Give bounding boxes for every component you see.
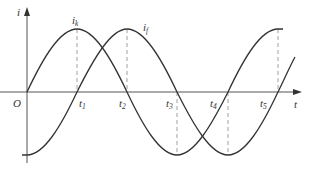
curve-label-i-f: if [143,21,149,35]
time-mark-t5: t5 [260,97,267,111]
y-axis-arrow-icon [24,7,30,16]
time-mark-t1: t1 [79,97,86,111]
origin-label: O [13,97,21,109]
y-axis-label: i [17,6,20,18]
waveform-diagram: i t O ik if t1 t2 t3 t4 t5 [0,0,313,175]
x-axis-label: t [294,98,298,110]
x-axis-arrow-icon [293,89,302,95]
curve-label-i-k: ik [72,14,79,28]
time-mark-t4: t4 [210,97,217,111]
time-mark-t3: t3 [166,97,173,111]
time-mark-t2: t2 [119,97,126,111]
